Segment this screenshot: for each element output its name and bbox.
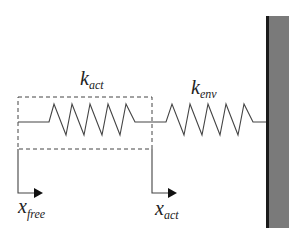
k-env-label: kenv: [191, 76, 217, 101]
wall: [266, 16, 289, 228]
spring-diagram: kact kenv xfree xact: [0, 0, 299, 237]
actuator-dashed-box: [18, 97, 152, 149]
k-act-label: kact: [80, 67, 104, 92]
environment-spring: [152, 104, 266, 135]
x-act-arrow: [152, 149, 177, 198]
x-act-label: xact: [154, 197, 179, 222]
actuator-spring: [18, 104, 152, 135]
x-free-arrow: [18, 149, 43, 198]
x-free-label: xfree: [17, 195, 46, 221]
